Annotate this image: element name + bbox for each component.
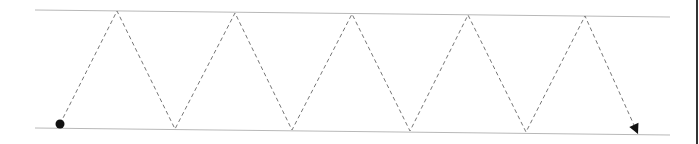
start-point-dot <box>56 120 65 129</box>
zigzag-path <box>60 11 638 134</box>
bottom-boundary-line <box>35 128 670 135</box>
right-border-line <box>696 0 698 144</box>
zigzag-diagram <box>0 0 699 144</box>
